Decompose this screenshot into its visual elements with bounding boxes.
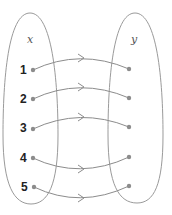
codomain-point: [127, 125, 131, 129]
domain-element-label: 1: [20, 63, 27, 77]
mapping-diagram: x y 1 2 3 4 5: [0, 0, 172, 215]
domain-element-label: 2: [20, 92, 27, 106]
domain-element-label: 5: [21, 180, 28, 194]
domain-element-label: 3: [20, 121, 27, 135]
arrows: [33, 54, 129, 202]
domain-set-label: x: [27, 33, 34, 46]
codomain-point: [127, 184, 131, 188]
codomain-point: [127, 96, 131, 100]
domain-point: [31, 68, 35, 72]
domain-point: [31, 127, 35, 131]
codomain-set-label: y: [130, 33, 138, 46]
domain-point: [31, 156, 35, 160]
arrowhead-icon: [78, 83, 84, 91]
domain-point: [32, 185, 36, 189]
domain-element-label: 4: [20, 151, 27, 165]
domain-point: [31, 97, 35, 101]
arrowhead-icon: [78, 54, 84, 62]
codomain-point: [127, 67, 131, 71]
codomain-point: [127, 155, 131, 159]
